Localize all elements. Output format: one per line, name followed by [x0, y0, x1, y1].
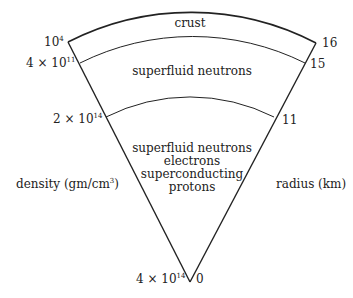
- radius-label-0: 0: [196, 273, 204, 286]
- region-core: superfluid neutrons electrons supercondu…: [132, 142, 252, 194]
- crust-boundary-arc: [80, 36, 305, 63]
- radius-label-11: 11: [282, 114, 297, 127]
- density-label-surface: 104: [44, 36, 64, 49]
- radius-label-16: 16: [322, 37, 337, 50]
- density-label-core-boundary: 2 × 1014: [53, 113, 103, 126]
- region-crust: crust: [174, 17, 205, 30]
- density-label-crust-base: 4 × 1011: [26, 57, 76, 70]
- neutron-star-structure-diagram: crust superfluid neutrons superfluid neu…: [0, 0, 353, 298]
- region-superfluid-neutrons: superfluid neutrons: [132, 65, 252, 78]
- radius-label-15: 15: [310, 58, 325, 71]
- radius-axis-label: radius (km): [276, 178, 346, 191]
- core-boundary-arc: [106, 97, 274, 117]
- density-axis-label: density (gm/cm3): [16, 178, 119, 191]
- density-label-center: 4 × 1014: [136, 273, 186, 286]
